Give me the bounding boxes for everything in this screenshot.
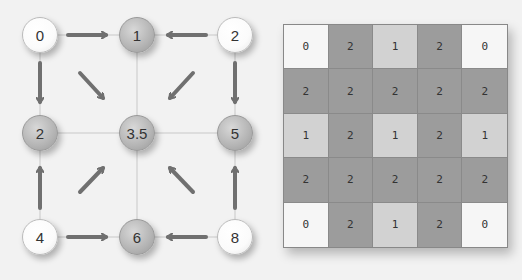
- grid-cell: 1: [284, 114, 329, 158]
- node-n11: 3.5: [119, 115, 155, 151]
- grid-cell: 2: [418, 25, 463, 69]
- grid-cell: 2: [418, 114, 463, 158]
- grid-cell: 2: [284, 158, 329, 202]
- node-n12: 5: [217, 115, 253, 151]
- grid-cell: 2: [462, 69, 507, 113]
- grid-cell: 2: [329, 203, 374, 247]
- node-n21: 6: [119, 219, 155, 255]
- grid-cell: 0: [284, 203, 329, 247]
- grid-cell: 2: [373, 158, 418, 202]
- grid-cell: 2: [462, 158, 507, 202]
- value-grid: 0212022222121212222202120: [283, 24, 508, 248]
- grid-cell: 2: [418, 69, 463, 113]
- node-n22: 8: [217, 219, 253, 255]
- node-n20: 4: [22, 219, 58, 255]
- grid-cell: 1: [373, 114, 418, 158]
- grid-cell: 0: [284, 25, 329, 69]
- arrow-icon: [80, 168, 103, 192]
- grid-cell: 1: [373, 203, 418, 247]
- grid-cell: 1: [462, 114, 507, 158]
- node-n01: 1: [119, 17, 155, 53]
- node-n02: 2: [217, 17, 253, 53]
- grid-cell: 2: [284, 69, 329, 113]
- grid-cell: 2: [373, 69, 418, 113]
- grid-cell: 0: [462, 203, 507, 247]
- grid-cell: 2: [329, 114, 374, 158]
- grid-cell: 0: [462, 25, 507, 69]
- arrow-icon: [170, 168, 193, 192]
- grid-cell: 2: [418, 203, 463, 247]
- grid-cell: 2: [418, 158, 463, 202]
- arrow-icon: [80, 73, 103, 98]
- node-n10: 2: [22, 115, 58, 151]
- node-n00: 0: [22, 17, 58, 53]
- grid-cell: 2: [329, 69, 374, 113]
- grid-cell: 2: [329, 25, 374, 69]
- grid-cell: 1: [373, 25, 418, 69]
- grid-cell: 2: [329, 158, 374, 202]
- arrow-icon: [170, 73, 193, 98]
